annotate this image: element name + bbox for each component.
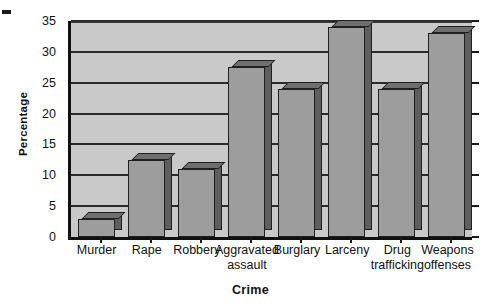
y-tick-label: 5 bbox=[16, 199, 56, 213]
right-tick bbox=[472, 20, 479, 22]
x-tick-label-line1: Larceny bbox=[325, 243, 369, 257]
bar-top-face bbox=[231, 60, 275, 67]
y-tick-label: 15 bbox=[16, 137, 56, 151]
bar-front-face bbox=[128, 160, 165, 237]
y-tick-label: 20 bbox=[16, 107, 56, 121]
bar-front-face bbox=[328, 27, 365, 237]
bar-top-face bbox=[332, 20, 376, 27]
x-tick-label: Drugtrafficking bbox=[371, 243, 424, 273]
bar-side-face bbox=[415, 82, 422, 230]
bar-top-face bbox=[81, 212, 125, 219]
bar bbox=[328, 27, 365, 237]
y-tick-label: 10 bbox=[16, 168, 56, 182]
bar-side-face bbox=[215, 162, 222, 230]
bar-front-face bbox=[228, 67, 265, 237]
x-tick-label: Rape bbox=[132, 243, 162, 258]
bar-front-face bbox=[78, 219, 115, 238]
bar-side-face bbox=[165, 153, 172, 230]
x-tick-label-line1: Weapons bbox=[421, 243, 474, 257]
x-tick-label-line1: Drug bbox=[384, 243, 411, 257]
bar-top-face bbox=[181, 162, 225, 169]
right-tick bbox=[472, 82, 479, 84]
x-tick-label-line2: assault bbox=[215, 258, 279, 273]
x-tick-label: Murder bbox=[77, 243, 117, 258]
bar-front-face bbox=[378, 89, 415, 237]
x-tick-label-line1: Murder bbox=[77, 243, 117, 257]
x-tick-label: Aggravatedassault bbox=[215, 243, 279, 273]
right-tick bbox=[472, 205, 479, 207]
y-tick-label: 30 bbox=[16, 45, 56, 59]
bar-series bbox=[71, 21, 472, 237]
bar bbox=[178, 169, 215, 237]
bar-side-face bbox=[465, 26, 472, 230]
bar bbox=[128, 160, 165, 237]
bar-side-face bbox=[265, 60, 272, 230]
x-axis-title: Crime bbox=[0, 283, 501, 297]
bar bbox=[428, 33, 465, 237]
bar-front-face bbox=[428, 33, 465, 237]
bar-top-face bbox=[131, 153, 175, 160]
bar-front-face bbox=[278, 89, 315, 237]
bar-top-face bbox=[382, 82, 426, 89]
x-tick-label-line1: Robbery bbox=[173, 243, 220, 257]
right-tick bbox=[472, 236, 479, 238]
bar bbox=[228, 67, 265, 237]
x-tick-label-line1: Burglary bbox=[274, 243, 321, 257]
x-tick-label-line1: Rape bbox=[132, 243, 162, 257]
bar-chart-figure: Percentage 05101520253035 MurderRapeRobb… bbox=[0, 0, 501, 304]
y-tick-label: 25 bbox=[16, 76, 56, 90]
bar-top-face bbox=[282, 82, 326, 89]
x-tick-label: Weaponsoffenses bbox=[421, 243, 474, 273]
bar-side-face bbox=[315, 82, 322, 230]
plot-area bbox=[68, 21, 472, 240]
x-tick-label-line2: offenses bbox=[421, 258, 474, 273]
bar bbox=[78, 219, 115, 238]
x-tick-label-line1: Aggravated bbox=[215, 243, 279, 257]
right-tick bbox=[472, 174, 479, 176]
bar bbox=[278, 89, 315, 237]
x-tick-label-line2: trafficking bbox=[371, 258, 424, 273]
right-tick bbox=[472, 51, 479, 53]
x-tick-label: Robbery bbox=[173, 243, 220, 258]
bar-front-face bbox=[178, 169, 215, 237]
x-tick-label: Burglary bbox=[274, 243, 321, 258]
x-tick-label: Larceny bbox=[325, 243, 369, 258]
right-tick bbox=[472, 113, 479, 115]
right-tick bbox=[472, 143, 479, 145]
y-tick-label: 35 bbox=[16, 14, 56, 28]
bar bbox=[378, 89, 415, 237]
y-tick-label: 0 bbox=[16, 230, 56, 244]
bar-side-face bbox=[365, 20, 372, 230]
x-axis-tick-labels: MurderRapeRobberyAggravatedassaultBurgla… bbox=[68, 243, 469, 283]
